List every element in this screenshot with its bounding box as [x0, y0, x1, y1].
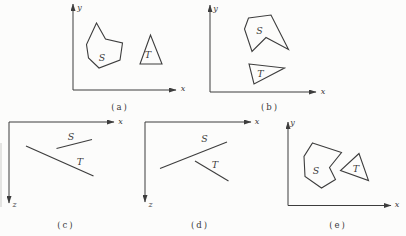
panel-e-region-S-label: S [313, 165, 320, 176]
scan-edge-artifact [0, 143, 2, 207]
panel-c-region-T-segment [26, 146, 94, 176]
panel-e-x-axis-label: x [395, 200, 400, 209]
panel-b-caption: (b) [261, 102, 279, 112]
panel-d-region-S-label: S [201, 133, 208, 144]
panel-a-caption: (a) [111, 102, 129, 112]
panel-d-region-T-label: T [212, 159, 219, 170]
panel-b: yxST(b) [210, 4, 326, 113]
panel-a-y-axis-label: y [76, 3, 82, 12]
panel-c-region-S-label: S [68, 131, 75, 142]
panel-d-z-axis-label: z [147, 200, 153, 209]
panel-b-region-T-label: T [257, 68, 264, 79]
panel-b-y-axis-label: y [212, 4, 218, 13]
panel-d-x-axis-label: x [255, 117, 260, 126]
panel-c-z-axis-label: z [11, 200, 17, 209]
panel-b-x-axis-label: x [321, 87, 326, 96]
panel-e-region-T-label: T [353, 163, 360, 174]
figure-canvas: yxST(a)yxST(b)xzST(c)xzST(d)yxST(e) [0, 0, 406, 236]
panel-e-caption: (e) [329, 220, 347, 230]
panel-a: yxST(a) [73, 3, 186, 112]
panel-b-region-T-polygon [249, 64, 285, 84]
panel-b-region-S-polygon [245, 15, 289, 52]
panel-c-x-axis-label: x [118, 117, 123, 126]
panel-c-caption: (c) [57, 220, 74, 230]
panel-e-region-S-polygon [304, 143, 342, 188]
panel-d: xzST(d) [145, 117, 260, 230]
panel-a-region-S-label: S [99, 52, 106, 63]
panel-e-y-axis-label: y [289, 118, 295, 127]
panel-c: xzST(c) [9, 117, 123, 230]
panel-a-region-T-label: T [145, 49, 152, 60]
panel-a-x-axis-label: x [181, 84, 186, 93]
panel-c-region-T-label: T [77, 156, 84, 167]
panel-e: yxST(e) [288, 118, 400, 230]
figure-svg: yxST(a)yxST(b)xzST(c)xzST(d)yxST(e) [0, 0, 406, 236]
panel-b-region-S-label: S [256, 25, 263, 36]
panel-d-caption: (d) [191, 220, 209, 230]
